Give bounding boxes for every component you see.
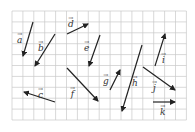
vector-j-label: →j: [152, 80, 157, 93]
vector-a-arrow: [23, 22, 33, 56]
vector-letter: h: [132, 78, 138, 88]
vector-e-label: →e: [84, 40, 89, 53]
vector-e-arrow: [89, 35, 100, 66]
vector-g-label: →g: [103, 73, 109, 86]
vector-j-arrow: [143, 67, 175, 90]
vector-letter: g: [103, 76, 109, 86]
vector-letter: c: [38, 90, 43, 100]
vector-letter: d: [68, 19, 74, 29]
vector-letter: a: [17, 35, 22, 45]
vector-f-label: →f: [70, 86, 75, 99]
vector-d-label: →d: [68, 16, 74, 29]
vector-letter: i: [162, 55, 165, 65]
vector-letter: b: [38, 43, 44, 53]
vector-k-label: →k: [160, 104, 165, 117]
vector-c-label: →c: [38, 87, 43, 100]
vector-h-label: →h: [132, 75, 138, 88]
vector-grid-diagram: [0, 0, 195, 132]
vector-i-label: →i: [161, 52, 166, 65]
vector-letter: e: [84, 43, 89, 53]
vector-letter: k: [160, 107, 165, 117]
vector-letter: f: [71, 89, 74, 99]
vector-b-label: →b: [38, 40, 44, 53]
vector-letter: j: [153, 83, 156, 93]
vector-a-label: →a: [17, 32, 22, 45]
